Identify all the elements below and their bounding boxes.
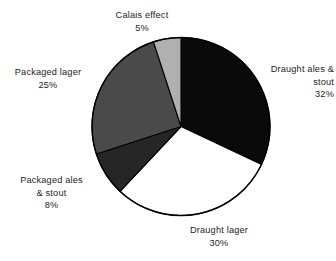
slice-label-value: 32% xyxy=(222,88,334,101)
slice-label-name: Packaged lager xyxy=(2,66,94,79)
slice-label-name: Draught lager xyxy=(164,224,274,237)
slice-label-packaged-lager: Packaged lager 25% xyxy=(2,66,94,91)
slice-label-draught-ales-and-stout: Draught ales & stout 32% xyxy=(222,63,334,101)
slice-label-value: 5% xyxy=(88,22,196,35)
slice-label-calais-effect: Calais effect 5% xyxy=(88,9,196,34)
slice-label-packaged-ales-and-stout: Packaged ales & stout 8% xyxy=(3,174,100,212)
slice-label-value: 8% xyxy=(3,199,100,212)
slice-label-value: 30% xyxy=(164,237,274,250)
slice-label-name-line2: stout xyxy=(222,76,334,89)
slice-label-name-line1: Packaged ales xyxy=(3,174,100,187)
pie-chart-canvas xyxy=(0,0,336,261)
slice-label-name-line2: & stout xyxy=(3,187,100,200)
slice-label-name-line1: Draught ales & xyxy=(222,63,334,76)
pie-chart-figure: Calais effect 5% Draught ales & stout 32… xyxy=(0,0,336,261)
slice-label-value: 25% xyxy=(2,79,94,92)
slice-label-name: Calais effect xyxy=(88,9,196,22)
slice-label-draught-lager: Draught lager 30% xyxy=(164,224,274,249)
